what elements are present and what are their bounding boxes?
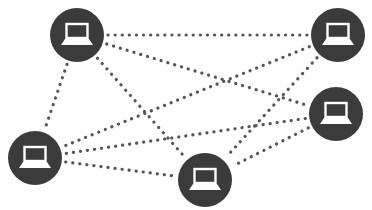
network-diagram <box>0 0 372 210</box>
link-top-right-to-bottom-left <box>64 47 310 147</box>
laptop-icon <box>61 24 93 45</box>
link-top-right-to-bottom-middle <box>226 58 317 157</box>
link-bottom-left-to-bottom-middle <box>66 162 175 176</box>
node-bottom-middle <box>178 153 232 207</box>
laptop-base <box>61 39 93 45</box>
laptop-screen <box>195 169 216 183</box>
link-right-middle-to-bottom-middle <box>233 128 309 166</box>
node-right-middle <box>309 87 363 141</box>
node-bottom-left <box>8 131 62 185</box>
link-top-left-to-right-middle <box>107 44 307 105</box>
node-top-left <box>50 8 104 62</box>
laptop-icon <box>19 147 51 168</box>
laptop-icon <box>320 103 352 124</box>
link-top-left-to-bottom-middle <box>98 58 185 157</box>
laptop-screen <box>67 24 88 38</box>
laptop-base <box>189 184 221 190</box>
laptop-screen <box>326 103 347 117</box>
laptop-base <box>320 118 352 124</box>
laptop-base <box>19 162 51 168</box>
laptop-screen <box>25 147 46 161</box>
link-top-left-to-bottom-left <box>45 64 67 128</box>
laptop-icon <box>322 24 354 45</box>
laptop-icon <box>189 169 221 190</box>
laptop-screen <box>328 24 349 38</box>
node-top-right <box>311 8 365 62</box>
laptop-base <box>322 39 354 45</box>
nodes-layer <box>8 8 365 207</box>
